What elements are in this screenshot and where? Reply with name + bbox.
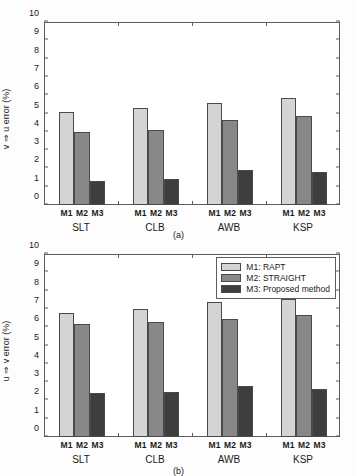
y-tick-mark: [336, 399, 340, 400]
y-tick-mark: [336, 344, 340, 345]
x-tick-label-m2: M2: [224, 209, 236, 218]
y-tick-mark: [336, 39, 340, 40]
y-tick-label: 3: [34, 369, 39, 378]
y-tick-label: 4: [34, 350, 39, 359]
plot-b: u ⇒ v error (%) 012345678910M1M2M3SLTM1M…: [44, 254, 340, 437]
bar-awb-m1: [207, 103, 223, 205]
y-tick-mark: [44, 436, 48, 437]
y-axis-label-a: v ⇒ u error (%): [1, 44, 11, 194]
bar-slt-m2: [74, 132, 90, 205]
panel-caption-a: (a): [0, 230, 357, 240]
x-tick-mark: [118, 254, 119, 258]
y-tick-mark: [336, 289, 340, 290]
y-tick-label: 2: [34, 387, 39, 396]
x-tick-mark: [266, 433, 267, 437]
legend-item-m1: M1: RAPT: [221, 262, 330, 272]
y-tick-mark: [44, 344, 48, 345]
x-tick-mark: [192, 201, 193, 205]
y-tick-label: 8: [34, 277, 39, 286]
y-tick-mark: [44, 130, 48, 131]
bar-clb-m1: [133, 108, 149, 205]
bar-clb-m3: [164, 179, 180, 205]
y-tick-mark: [336, 307, 340, 308]
y-tick-mark: [336, 112, 340, 113]
y-tick-label: 2: [34, 155, 39, 164]
chart-panel-b: u ⇒ v error (%) 012345678910M1M2M3SLTM1M…: [0, 240, 357, 476]
y-tick-label: 0: [34, 192, 39, 201]
bar-slt-m1: [59, 313, 75, 437]
y-tick-mark: [44, 307, 48, 308]
y-tick-mark: [44, 149, 48, 150]
y-tick-label: 7: [34, 295, 39, 304]
bar-group: [133, 254, 180, 437]
x-tick-label-m3: M3: [314, 441, 326, 450]
y-tick-mark: [44, 94, 48, 95]
y-tick-mark: [336, 253, 340, 254]
bar-awb-m2: [222, 319, 238, 437]
bar-awb-m3: [238, 170, 254, 205]
x-tick-label-m2: M2: [76, 441, 88, 450]
x-tick-label-m2: M2: [150, 441, 162, 450]
x-group-label-clb: CLB: [145, 454, 164, 465]
bar-ksp-m1: [281, 98, 297, 205]
x-tick-mark: [118, 433, 119, 437]
legend-swatch-m2: [221, 274, 241, 282]
legend-swatch-m3: [221, 285, 241, 293]
bar-ksp-m3: [312, 389, 328, 437]
y-tick-mark: [44, 39, 48, 40]
legend: M1: RAPTM2: STRAIGHTM3: Proposed method: [216, 257, 336, 299]
y-tick-label: 1: [34, 405, 39, 414]
legend-label-m3: M3: Proposed method: [246, 285, 330, 294]
bar-group: [59, 22, 106, 205]
plot-a: v ⇒ u error (%) 012345678910M1M2M3SLTM1M…: [44, 22, 340, 205]
x-tick-label-m3: M3: [166, 441, 178, 450]
y-tick-mark: [336, 149, 340, 150]
legend-item-m2: M2: STRAIGHT: [221, 273, 330, 283]
bar-slt-m1: [59, 112, 75, 205]
y-tick-mark: [336, 381, 340, 382]
y-tick-mark: [336, 417, 340, 418]
x-tick-mark: [192, 22, 193, 26]
bar-ksp-m2: [296, 116, 312, 205]
y-tick-mark: [336, 21, 340, 22]
y-tick-mark: [44, 399, 48, 400]
x-tick-label-m1: M1: [61, 209, 73, 218]
y-tick-mark: [44, 21, 48, 22]
y-tick-label: 3: [34, 137, 39, 146]
x-tick-mark: [118, 201, 119, 205]
y-tick-label: 0: [34, 424, 39, 433]
y-tick-label: 10: [29, 9, 39, 18]
bar-group: [207, 22, 254, 205]
x-tick-label-m1: M1: [209, 209, 221, 218]
legend-swatch-m1: [221, 263, 241, 271]
x-tick-label-m3: M3: [314, 209, 326, 218]
bar-slt-m3: [90, 393, 106, 437]
bar-group: [59, 254, 106, 437]
y-tick-label: 9: [34, 259, 39, 268]
bar-ksp-m2: [296, 315, 312, 437]
x-tick-label-m3: M3: [166, 209, 178, 218]
x-tick-mark: [266, 22, 267, 26]
x-tick-label-m2: M2: [76, 209, 88, 218]
y-tick-mark: [44, 381, 48, 382]
legend-label-m2: M2: STRAIGHT: [246, 274, 306, 283]
x-tick-label-m1: M1: [283, 441, 295, 450]
y-tick-mark: [44, 253, 48, 254]
y-tick-mark: [336, 271, 340, 272]
x-tick-label-m2: M2: [150, 209, 162, 218]
y-tick-mark: [44, 185, 48, 186]
y-tick-mark: [336, 362, 340, 363]
bar-clb-m3: [164, 392, 180, 437]
y-tick-label: 4: [34, 118, 39, 127]
x-tick-mark: [266, 201, 267, 205]
y-tick-mark: [44, 289, 48, 290]
x-tick-mark: [192, 433, 193, 437]
figure: v ⇒ u error (%) 012345678910M1M2M3SLTM1M…: [0, 0, 357, 476]
y-tick-mark: [44, 75, 48, 76]
y-tick-mark: [336, 326, 340, 327]
x-group-label-slt: SLT: [72, 454, 90, 465]
x-tick-label-m3: M3: [92, 209, 104, 218]
bar-ksp-m1: [281, 299, 297, 437]
x-group-label-awb: AWB: [218, 454, 240, 465]
legend-label-m1: M1: RAPT: [246, 263, 285, 272]
